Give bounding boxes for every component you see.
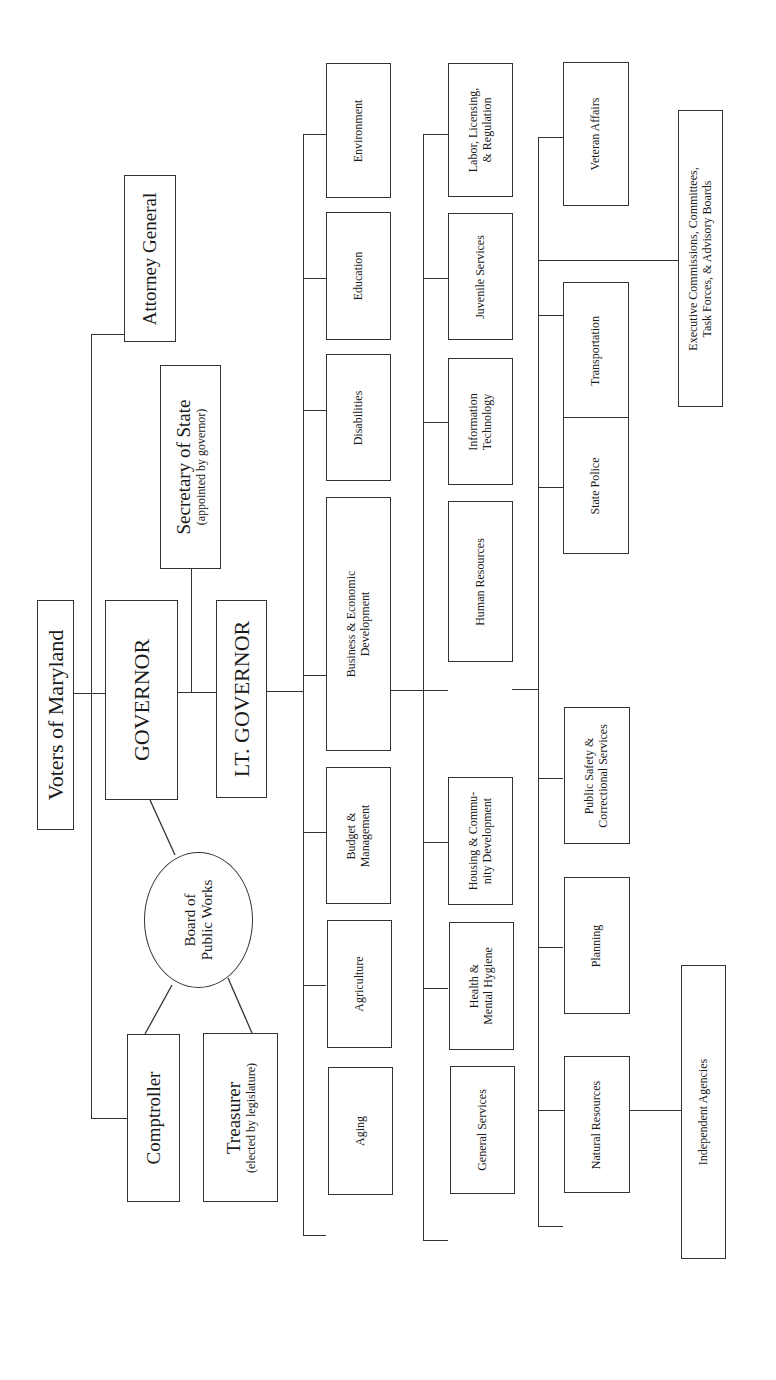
connector-line [91, 334, 92, 1119]
dept-label-line2: Management [359, 804, 373, 867]
secretary-of-state-text: Secretary of State (appointed by governo… [173, 399, 209, 534]
dept-text: Public Safety & Correctional Services [583, 724, 611, 828]
connector-line [73, 693, 105, 694]
governor-box: GOVERNOR [105, 600, 178, 800]
dept-text: Information Technology [467, 393, 495, 450]
exec-line2: Task Forces, & Advisory Boards [701, 167, 715, 350]
dept-housing-community-development: Housing & Commu- nity Development [448, 777, 513, 905]
dept-label: Education [352, 252, 366, 301]
executive-commissions-text: Executive Commissions, Committees, Task … [687, 167, 715, 350]
connector-line [303, 278, 326, 279]
dept-label: Natural Resources [590, 1080, 604, 1168]
exec-line1: Executive Commissions, Committees, [687, 167, 701, 350]
dept-label: Juvenile Services [474, 235, 488, 319]
connector-line [538, 947, 563, 948]
board-of-public-works-text: Board of Public Works [181, 880, 216, 961]
dept-label: Veteran Affairs [589, 98, 603, 171]
dept-veteran-affairs: Veteran Affairs [563, 62, 629, 206]
dept-environment: Environment [326, 63, 391, 198]
connector-line [538, 487, 563, 488]
connector-line [423, 134, 424, 1241]
dept-business-economic-development: Business & Economic Development [326, 497, 391, 751]
dept-agriculture: Agriculture [327, 920, 392, 1048]
dept-health-mental-hygiene: Health & Mental Hygiene [449, 922, 514, 1050]
dept-disabilities: Disabilities [326, 354, 391, 481]
dept-label-line2: Technology [481, 393, 495, 450]
connector-line [538, 1226, 563, 1227]
lt-governor-box: LT. GOVERNOR [216, 600, 267, 798]
voters-label: Voters of Maryland [43, 630, 68, 801]
connector-line [303, 134, 304, 1236]
independent-agencies-label: Independent Agencies [697, 1059, 711, 1165]
secretary-of-state-label: Secretary of State [173, 399, 195, 534]
connector-line [303, 675, 326, 676]
dept-label-line2: & Regulation [481, 88, 495, 173]
dept-text: Business & Economic Development [345, 571, 373, 678]
connector-line [91, 1118, 127, 1119]
secretary-of-state-note: (appointed by governor) [195, 399, 209, 534]
attorney-general-label: Attorney General [139, 192, 161, 324]
board-line-1: Board of [181, 880, 198, 961]
connector-line [423, 690, 448, 691]
treasurer-text: Treasurer (elected by legislature) [223, 1063, 259, 1173]
connector-line [191, 568, 192, 692]
connector-line [303, 1235, 326, 1236]
dept-label-line2: Development [359, 571, 373, 678]
connector-line [303, 832, 326, 833]
dept-label-line1: Labor, Licensing, [467, 88, 481, 173]
voters-box: Voters of Maryland [37, 600, 74, 830]
dept-label: Human Resources [474, 538, 488, 626]
dept-label-line2: nity Development [481, 792, 495, 891]
dept-label: Environment [352, 99, 366, 162]
connector-line [423, 1240, 448, 1241]
connector-line [423, 422, 448, 423]
connector-line [303, 410, 326, 411]
connector-line [538, 137, 563, 138]
connector-line [390, 690, 423, 691]
governor-label: GOVERNOR [129, 639, 154, 761]
dept-label: Agriculture [353, 956, 367, 1011]
treasurer-note: (elected by legislature) [245, 1063, 259, 1173]
dept-label-line1: Health & [468, 947, 482, 1025]
comptroller-box: Comptroller [127, 1034, 180, 1202]
connector-line [91, 334, 124, 335]
connector-line [423, 988, 448, 989]
dept-text: Labor, Licensing, & Regulation [467, 88, 495, 173]
dept-label: General Services [476, 1089, 490, 1171]
connector-line [266, 691, 303, 692]
secretary-of-state-box: Secretary of State (appointed by governo… [160, 365, 221, 569]
dept-aging: Aging [328, 1067, 393, 1195]
comptroller-label: Comptroller [143, 1072, 165, 1165]
dept-planning: Planning [564, 877, 630, 1014]
dept-label-line1: Information [467, 393, 481, 450]
dept-label-line1: Housing & Commu- [467, 792, 481, 891]
dept-text: Housing & Commu- nity Development [467, 792, 495, 891]
dept-public-safety-correctional-services: Public Safety & Correctional Services [564, 707, 630, 844]
dept-labor-licensing-regulation: Labor, Licensing, & Regulation [448, 63, 513, 197]
dept-juvenile-services: Juvenile Services [448, 213, 513, 340]
dept-label: State Police [589, 457, 603, 514]
connector-line [177, 692, 216, 693]
dept-state-police-box: State Police [563, 417, 629, 554]
connector-line [423, 278, 448, 279]
connector-line [538, 137, 539, 1227]
attorney-general-box: Attorney General [124, 175, 176, 342]
dept-natural-resources: Natural Resources [564, 1056, 630, 1193]
connector-line [538, 315, 563, 316]
dept-label-line1: Budget & [345, 804, 359, 867]
independent-agencies-box: Independent Agencies [681, 965, 726, 1259]
dept-transportation: Transportation [563, 282, 629, 420]
board-of-public-works-ellipse: Board of Public Works [144, 852, 253, 988]
dept-label: Planning [590, 924, 604, 967]
connector-line [538, 778, 563, 779]
dept-budget-management: Budget & Management [326, 767, 391, 904]
board-line-2: Public Works [199, 880, 216, 961]
dept-label-line1: Business & Economic [345, 571, 359, 678]
connector-line [538, 260, 678, 261]
dept-text: Budget & Management [345, 804, 373, 867]
dept-education: Education [326, 212, 391, 340]
connector-line [512, 689, 538, 690]
lt-governor-label: LT. GOVERNOR [229, 621, 254, 777]
executive-commissions-box: Executive Commissions, Committees, Task … [678, 110, 723, 407]
treasurer-box: Treasurer (elected by legislature) [203, 1033, 278, 1202]
